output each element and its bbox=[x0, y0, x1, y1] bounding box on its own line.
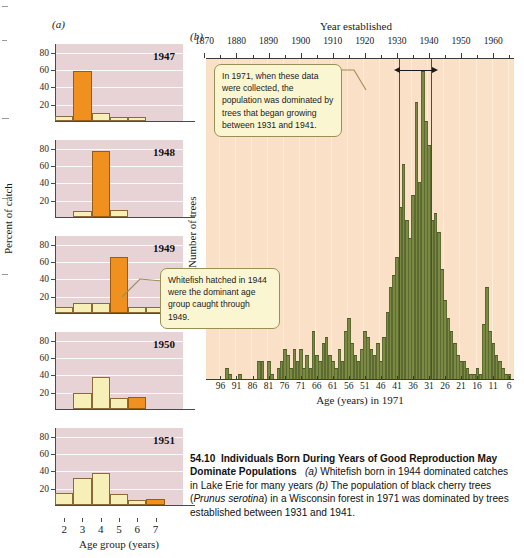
bar-age-2 bbox=[55, 116, 73, 121]
y-axis-line bbox=[55, 236, 56, 314]
bar-age-4 bbox=[92, 113, 110, 121]
chart-year-label: 1948 bbox=[153, 146, 175, 158]
panel-a-chart-1948: 806040201948 bbox=[55, 140, 183, 218]
figure-54-10: (a) Percent of catch 8060402019478060402… bbox=[0, 0, 524, 558]
x-tick-label: 4 bbox=[98, 523, 104, 535]
reference-line-1931 bbox=[399, 59, 400, 380]
bottom-axis-tick-label: 21 bbox=[456, 381, 466, 391]
bar-age-2 bbox=[55, 493, 73, 505]
bar-age-6 bbox=[128, 500, 146, 505]
bottom-axis-tick-label: 51 bbox=[360, 381, 370, 391]
bottom-axis-tick-label: 26 bbox=[440, 381, 450, 391]
y-tick-label: 40 bbox=[40, 274, 50, 284]
bottom-axis-tick-label: 71 bbox=[296, 381, 306, 391]
bottom-axis-tick-label: 36 bbox=[408, 381, 418, 391]
bottom-axis-tick bbox=[381, 376, 382, 380]
caption-part-a-tag: (a) bbox=[305, 466, 317, 477]
y-tick-label: 20 bbox=[40, 292, 50, 302]
bar-age-5 bbox=[110, 210, 128, 217]
x-tick-label: 7 bbox=[153, 523, 159, 535]
arrow-head-left bbox=[394, 67, 400, 73]
bottom-axis-tick bbox=[253, 376, 254, 380]
vertical-gridline bbox=[379, 59, 380, 380]
caption-part-b-tag: (b) bbox=[316, 480, 328, 491]
gridline bbox=[55, 454, 183, 455]
panel-b-ylabel: Number of trees bbox=[186, 197, 198, 268]
bar-age-3 bbox=[73, 303, 91, 313]
bar-age-3 bbox=[73, 211, 91, 217]
y-tick-label: 60 bbox=[40, 65, 50, 75]
panel-a-chart-1950: 806040201950 bbox=[55, 332, 183, 410]
bar-age-5 bbox=[110, 117, 128, 121]
bottom-axis-tick-label: 6 bbox=[507, 381, 512, 391]
x-tick-label: 3 bbox=[80, 523, 86, 535]
bar-age-4 bbox=[92, 473, 110, 505]
y-tick-label: 40 bbox=[40, 466, 50, 476]
bottom-axis-tick bbox=[349, 376, 350, 380]
bottom-axis-tick-label: 16 bbox=[472, 381, 482, 391]
bottom-axis-tick-label: 61 bbox=[328, 381, 338, 391]
top-axis-tick-label: 1870 bbox=[195, 36, 214, 46]
panel-a-callout-leader bbox=[118, 275, 162, 305]
y-tick-label: 80 bbox=[40, 144, 50, 154]
vertical-gridline bbox=[508, 59, 509, 380]
vertical-gridline bbox=[476, 59, 477, 380]
bottom-axis-tick-label: 11 bbox=[489, 381, 498, 391]
top-axis-tick-label: 1950 bbox=[452, 36, 471, 46]
panel-a-ylabel: Percent of catch bbox=[2, 183, 14, 254]
arrow-head-right bbox=[432, 67, 438, 73]
x-tick bbox=[119, 518, 120, 522]
histogram-bar-age-83 bbox=[261, 361, 265, 380]
bar-age-5 bbox=[110, 494, 128, 505]
gridline bbox=[55, 201, 183, 202]
y-tick-label: 60 bbox=[40, 257, 50, 267]
y-tick-label: 80 bbox=[40, 432, 50, 442]
x-tick-label: 2 bbox=[61, 523, 67, 535]
x-tick bbox=[101, 518, 102, 522]
bar-age-2 bbox=[55, 307, 73, 313]
gridline bbox=[55, 183, 183, 184]
y-tick-label: 40 bbox=[40, 370, 50, 380]
bar-age-3 bbox=[73, 393, 91, 409]
bottom-axis-tick bbox=[236, 376, 237, 380]
top-axis-tick-label: 1920 bbox=[355, 36, 374, 46]
chart-year-label: 1947 bbox=[153, 50, 175, 62]
bar-age-4 bbox=[92, 151, 110, 217]
chart-year-label: 1950 bbox=[153, 338, 175, 350]
bottom-axis-tick bbox=[461, 376, 462, 380]
bottom-axis-tick bbox=[301, 376, 302, 380]
panel-b-top-axis: 1870188018901900191019201930194019501960 bbox=[206, 36, 514, 58]
gridline bbox=[55, 358, 183, 359]
y-tick-label: 40 bbox=[40, 82, 50, 92]
panel-a-xaxis: 234567Age group (years) bbox=[55, 518, 183, 554]
bottom-axis-tick bbox=[477, 376, 478, 380]
gridline bbox=[55, 375, 183, 376]
x-tick bbox=[137, 518, 138, 522]
panel-a-chart-1951: 806040201951 bbox=[55, 428, 183, 506]
y-tick-label: 60 bbox=[40, 449, 50, 459]
panel-a-chart-1947: 806040201947 bbox=[55, 44, 183, 122]
x-axis-line bbox=[55, 409, 195, 410]
top-axis-tick-label: 1910 bbox=[323, 36, 342, 46]
bar-age-3 bbox=[73, 478, 91, 505]
vertical-gridline bbox=[459, 59, 460, 380]
top-axis-tick-label: 1880 bbox=[227, 36, 246, 46]
bottom-axis-tick bbox=[317, 376, 318, 380]
bar-age-6 bbox=[128, 117, 146, 121]
dominant-cohort-arrow bbox=[400, 70, 432, 71]
bottom-axis-tick bbox=[333, 376, 334, 380]
y-axis-line bbox=[55, 140, 56, 218]
bottom-axis-tick bbox=[445, 376, 446, 380]
y-tick-label: 60 bbox=[40, 161, 50, 171]
top-axis-tick-label: 1890 bbox=[259, 36, 278, 46]
top-axis-tick-label: 1900 bbox=[291, 36, 310, 46]
gridline bbox=[55, 166, 183, 167]
bottom-axis-tick-label: 31 bbox=[424, 381, 434, 391]
bottom-axis-tick-label: 91 bbox=[232, 381, 242, 391]
x-axis-line bbox=[55, 121, 195, 122]
panel-a-xlabel: Age group (years) bbox=[79, 538, 159, 550]
bar-age-7 bbox=[146, 499, 164, 505]
y-tick-label: 60 bbox=[40, 353, 50, 363]
x-tick bbox=[156, 518, 157, 522]
bottom-axis-tick-label: 56 bbox=[344, 381, 354, 391]
